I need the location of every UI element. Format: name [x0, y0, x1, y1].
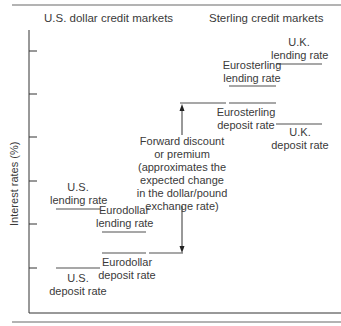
eurodollar-lending-line2: lending rate [96, 217, 152, 230]
annotation-line-1: Forward discount [136, 135, 228, 148]
y-axis-label: Interest rates (%) [8, 142, 20, 226]
annotation-line-6: exchange rate) [136, 200, 228, 213]
eurodollar-deposit-line1: Eurodollar [96, 256, 158, 269]
eurosterling-lending-rate-label: Eurosterling lending rate [220, 59, 284, 85]
us-deposit-rate-label: U.S. deposit rate [48, 272, 108, 298]
forward-premium-annotation: Forward discount or premium (approximate… [136, 135, 228, 213]
annotation-line-2: or premium [136, 148, 228, 161]
uk-deposit-rate-label: U.K. deposit rate [268, 126, 332, 152]
us-dollar-markets-header: U.S. dollar credit markets [44, 12, 173, 25]
uk-deposit-line2: deposit rate [268, 139, 332, 152]
us-lending-line1: U.S. [50, 181, 106, 194]
uk-lending-line1: U.K. [271, 36, 327, 49]
y-axis-ticks [29, 51, 37, 268]
us-deposit-line2: deposit rate [48, 285, 108, 298]
annotation-line-4: expected change [136, 174, 228, 187]
annotation-line-5: in the dollar/pound [136, 187, 228, 200]
eurosterling-lending-line1: Eurosterling [220, 59, 284, 72]
eurosterling-deposit-line1: Eurosterling [214, 106, 278, 119]
us-deposit-line1: U.S. [48, 272, 108, 285]
diagram-canvas: U.S. dollar credit markets Sterling cred… [0, 0, 341, 326]
sterling-markets-header: Sterling credit markets [209, 12, 323, 25]
uk-deposit-line1: U.K. [268, 126, 332, 139]
annotation-line-3: (approximates the [136, 161, 228, 174]
eurosterling-lending-line2: lending rate [220, 72, 284, 85]
